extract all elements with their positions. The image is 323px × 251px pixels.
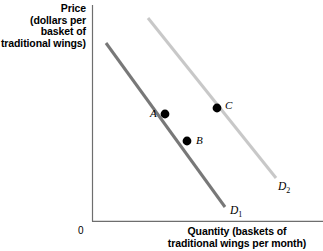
point-marker-c <box>213 104 222 113</box>
y-axis-title: Price (dollars per basket of traditional… <box>0 3 86 49</box>
point-marker-a <box>161 110 170 119</box>
point-label-c: C <box>225 100 232 111</box>
demand-curve-figure: Price (dollars per basket of traditional… <box>0 0 323 251</box>
curve-label-d1: D1 <box>230 205 242 217</box>
curve-label-d2: D2 <box>278 181 290 193</box>
curve-label-d2-subscript: 2 <box>286 186 290 195</box>
point-marker-b <box>183 137 192 146</box>
point-label-a: A <box>150 108 157 119</box>
origin-label: 0 <box>78 225 84 236</box>
demand-curve-d2 <box>148 18 276 178</box>
curve-label-d1-subscript: 1 <box>238 210 242 219</box>
point-label-b: B <box>196 135 203 146</box>
x-axis-title: Quantity (baskets of traditional wings p… <box>151 226 323 249</box>
demand-curve-d1 <box>106 43 225 207</box>
